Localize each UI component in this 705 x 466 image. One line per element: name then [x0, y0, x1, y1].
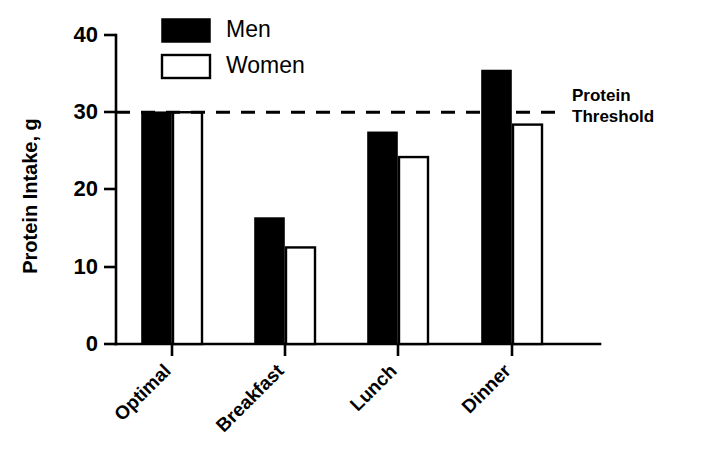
y-tick-label-20: 20	[74, 176, 98, 201]
y-axis-tick-labels: 40 30 20 10 0	[74, 22, 98, 356]
bar-lunch-women[interactable]	[399, 157, 428, 344]
bar-optimal-men[interactable]	[142, 112, 171, 344]
legend-label-men: Men	[226, 16, 271, 42]
bar-dinner-women[interactable]	[513, 125, 542, 344]
legend: Men Women	[162, 16, 305, 78]
bar-group-breakfast	[255, 218, 315, 344]
x-axis-tick-labels: Optimal Breakfast Lunch Dinner	[110, 360, 515, 437]
y-tick-label-10: 10	[74, 254, 98, 279]
bar-breakfast-women[interactable]	[286, 247, 315, 344]
legend-label-women: Women	[226, 52, 305, 78]
bar-lunch-men[interactable]	[368, 132, 397, 344]
x-axis: Optimal Breakfast Lunch Dinner	[110, 344, 600, 436]
y-axis-title: Protein Intake, g	[19, 118, 41, 274]
chart-svg: 40 30 20 10 0 Protein Intake, g Optimal …	[0, 0, 705, 466]
open-square-icon	[162, 55, 210, 78]
y-tick-label-0: 0	[86, 331, 98, 356]
y-tick-label-30: 30	[74, 99, 98, 124]
protein-threshold-label-line1: Protein	[572, 86, 631, 105]
bar-group-optimal	[142, 112, 202, 344]
bar-optimal-women[interactable]	[173, 112, 202, 344]
bar-breakfast-men[interactable]	[255, 218, 284, 344]
x-axis-ticks	[172, 344, 512, 356]
legend-item-women[interactable]: Women	[162, 52, 305, 78]
bar-group-lunch	[368, 132, 428, 344]
x-tick-label-dinner: Dinner	[457, 360, 515, 418]
x-tick-label-breakfast: Breakfast	[212, 360, 289, 437]
x-tick-label-lunch: Lunch	[346, 360, 401, 415]
legend-item-men[interactable]: Men	[162, 16, 271, 42]
filled-square-icon	[162, 19, 210, 42]
y-axis-ticks	[104, 35, 116, 344]
protein-threshold-label-line2: Threshold	[572, 107, 654, 126]
y-tick-label-40: 40	[74, 22, 98, 47]
y-axis: 40 30 20 10 0 Protein Intake, g	[19, 22, 116, 356]
protein-intake-bar-chart: 40 30 20 10 0 Protein Intake, g Optimal …	[0, 0, 705, 466]
x-tick-label-optimal: Optimal	[110, 360, 175, 425]
